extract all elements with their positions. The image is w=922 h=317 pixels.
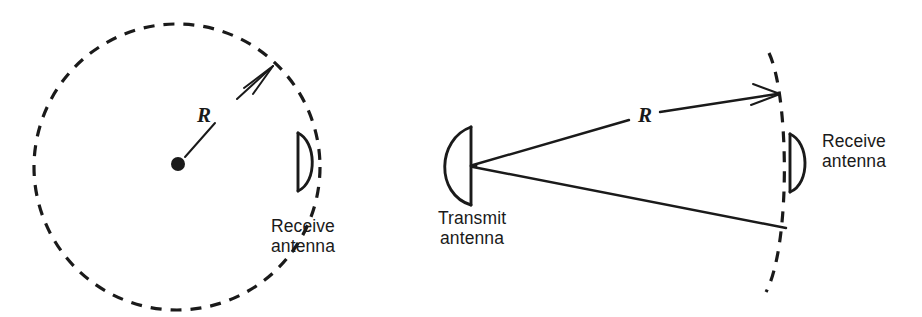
receive-antenna-label-line2-left: antenna [271, 236, 335, 256]
receive-antenna-dish-left [298, 133, 312, 191]
transmit-antenna-dish [445, 127, 476, 205]
receive-antenna-label-line1-right: Receive [822, 131, 886, 151]
radius-line-upper-segment [237, 68, 271, 99]
range-label-R-left: R [196, 103, 211, 127]
radius-line-lower-segment [185, 123, 215, 157]
omnidirectional-coverage-diagram: R Receive antenna [34, 24, 335, 310]
receive-antenna-dish-right [790, 134, 805, 192]
source-point-dot [171, 157, 185, 171]
figure-canvas: R Receive antenna [0, 0, 922, 317]
lower-beam-ray [473, 167, 786, 228]
directional-beam-diagram: R Transmit antenna Receive antenna [438, 53, 886, 292]
antenna-range-figure: R Receive antenna [0, 0, 922, 317]
transmit-antenna-label-line1: Transmit [438, 208, 506, 228]
upper-beam-ray-segment-1 [473, 120, 629, 165]
range-label-R-right: R [637, 103, 652, 127]
transmit-antenna-label-line2: antenna [440, 228, 504, 248]
upper-beam-ray-segment-2 [660, 94, 777, 112]
receive-antenna-label-line2-right: antenna [822, 151, 886, 171]
receive-antenna-label-line1-left: Receive [271, 216, 335, 236]
